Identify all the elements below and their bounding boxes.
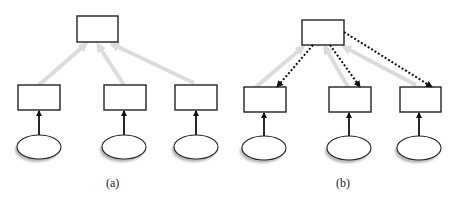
leaf-node-a-1 (102, 135, 146, 159)
shadow-layer (15, 138, 439, 163)
root-node-b (302, 20, 344, 45)
panel-a-label: (a) (106, 176, 119, 191)
gray-arrow-a (39, 44, 86, 85)
gray-arrow-b (256, 47, 303, 87)
gray-arrows-layer (39, 44, 416, 87)
leaf-node-a-0 (17, 135, 61, 159)
gray-arrow-b (325, 47, 348, 87)
mid-node-a-2 (175, 85, 217, 110)
mid-node-a-0 (18, 85, 60, 110)
mid-node-b-0 (244, 87, 286, 112)
panel-b-label: (b) (336, 176, 350, 191)
mid-node-b-1 (329, 87, 371, 112)
dotted-arrow-b (344, 32, 432, 87)
leaf-node-b-0 (242, 136, 286, 160)
gray-arrow-a (112, 44, 194, 83)
black-arrows-layer (39, 111, 419, 136)
gray-arrow-b (344, 47, 416, 85)
nodes-layer (17, 16, 441, 160)
mid-node-a-1 (104, 85, 146, 110)
leaf-node-b-1 (327, 136, 371, 160)
gray-arrow-a (98, 45, 124, 85)
dotted-arrows-layer (277, 32, 432, 87)
root-node-a (77, 16, 118, 42)
leaf-node-b-2 (397, 136, 441, 160)
mid-node-b-2 (400, 87, 441, 112)
leaf-node-a-2 (174, 135, 218, 159)
diagram-canvas (0, 0, 455, 201)
